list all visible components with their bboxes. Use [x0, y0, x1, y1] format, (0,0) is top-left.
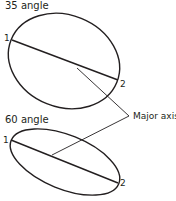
ellipse-diagram: 35 angle 1 2 60 angle 1 2 Major axis: [0, 0, 176, 201]
bottom-point-1-label: 1: [3, 135, 9, 145]
bottom-title: 60 angle: [5, 114, 49, 125]
bottom-major-axis-line: [11, 140, 118, 183]
top-major-axis-line: [12, 40, 118, 80]
top-ellipse: [0, 0, 134, 125]
top-title: 35 angle: [5, 0, 49, 11]
top-point-2-label: 2: [120, 79, 126, 89]
top-point-1-label: 1: [4, 33, 10, 43]
major-axis-callout: Major axis: [133, 111, 176, 121]
bottom-ellipse: [1, 115, 129, 201]
bottom-point-2-label: 2: [120, 178, 126, 188]
